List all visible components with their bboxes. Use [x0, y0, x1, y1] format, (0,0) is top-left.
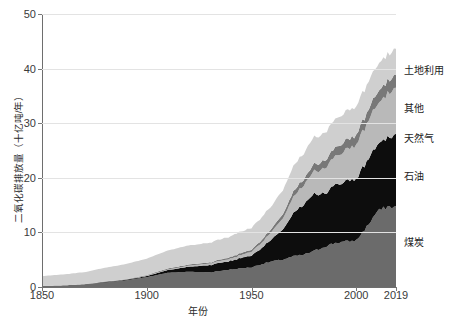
x-axis-title: 年份 [0, 303, 396, 318]
chart-root: 01020304050 18501900195020002019 土地利用其他天… [0, 0, 457, 326]
x-tick-mark-1850 [42, 287, 43, 291]
y-tick-label-50: 50 [0, 8, 36, 20]
legend-label-other: 其他 [404, 99, 424, 114]
gridline-40 [42, 69, 396, 70]
x-tick-mark-1950 [252, 287, 253, 291]
gridline-50 [42, 14, 396, 15]
legend-label-gas: 天然气 [404, 129, 434, 144]
x-tick-mark-2019 [396, 287, 397, 291]
y-axis-line [42, 14, 43, 288]
gridline-20 [42, 178, 396, 179]
stacked-area-plot [0, 0, 457, 326]
legend-label-oil: 石油 [404, 168, 424, 183]
legend-label-land_use: 土地利用 [404, 61, 444, 76]
x-tick-mark-2000 [356, 287, 357, 291]
gridline-10 [42, 232, 396, 233]
x-tick-mark-1900 [147, 287, 148, 291]
legend-label-coal: 煤炭 [404, 233, 424, 248]
x-axis-line [42, 287, 396, 288]
gridline-30 [42, 123, 396, 124]
y-axis-title: 二氧化碳排放量（十亿吨/年） [11, 47, 25, 267]
